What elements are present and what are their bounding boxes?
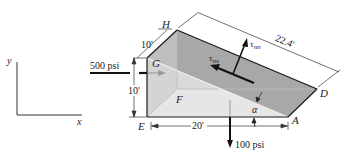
base-dimension — [151, 122, 288, 130]
depth-label: 10' — [141, 39, 153, 50]
height-label: 10' — [128, 85, 140, 96]
vertex-e-label: E — [137, 120, 145, 132]
normal-stress-label: τnn — [250, 39, 261, 51]
vertex-a-label: A — [291, 114, 299, 126]
coordinate-axes — [17, 62, 82, 115]
vertex-g-label: G — [152, 57, 160, 69]
angle-label: α — [252, 104, 258, 115]
horizontal-load-label: 500 psi — [90, 60, 119, 71]
vertex-h-label: H — [161, 18, 171, 30]
vertex-d-label: D — [319, 87, 328, 99]
vertex-f-label: F — [175, 93, 183, 105]
y-axis-label: y — [6, 55, 12, 66]
vertical-load-label: 100 psi — [235, 139, 264, 150]
base-label: 20' — [192, 120, 204, 131]
x-axis-label: x — [76, 116, 82, 127]
stress-wedge-diagram: y x 10' 10' — [0, 0, 351, 155]
